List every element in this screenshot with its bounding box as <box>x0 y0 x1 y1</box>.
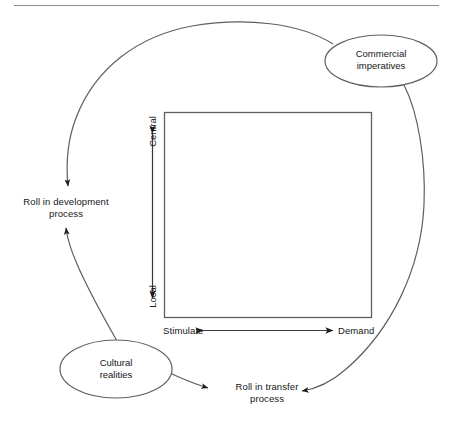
axis-label-stimulate: Stimulate <box>163 325 204 337</box>
node-label-commercial-imperatives: Commercial imperatives <box>325 48 437 72</box>
arc-cultural-to-transfer <box>166 371 208 388</box>
axis-label-local: Local <box>147 276 158 318</box>
figure-canvas: Commercial imperatives Cultural realitie… <box>0 0 453 427</box>
label-roll-in-development-process: Roll in development process <box>8 196 124 219</box>
axis-label-demand: Demand <box>338 325 375 337</box>
arc-cultural-to-development <box>66 228 117 341</box>
arc-commercial-to-development <box>67 22 333 186</box>
node-label-cultural-realities: Cultural realities <box>60 357 172 381</box>
matrix-square <box>165 113 372 318</box>
arc-commercial-to-transfer <box>302 85 424 391</box>
label-roll-in-transfer-process: Roll in transfer process <box>211 381 323 404</box>
axis-label-central: Central <box>147 107 158 156</box>
